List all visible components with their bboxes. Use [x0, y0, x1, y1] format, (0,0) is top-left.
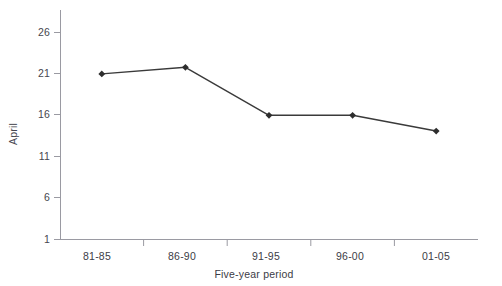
- data-point-marker: [349, 112, 356, 119]
- x-tick-label-81-85: 81-85: [62, 250, 132, 262]
- y-tick-label-6: 6: [20, 192, 50, 203]
- y-axis-ticks: [54, 33, 60, 240]
- line-chart: 26 21 16 11 6 1 April 81-85 86-90 91-95 …: [0, 0, 502, 286]
- plot-area: [0, 0, 502, 286]
- data-point-marker: [182, 64, 189, 71]
- x-axis-ticks: [144, 240, 395, 246]
- data-point-marker: [433, 128, 440, 135]
- x-tick-label-01-05: 01-05: [401, 250, 471, 262]
- y-tick-label-11: 11: [20, 151, 50, 162]
- data-point-marker: [98, 71, 105, 78]
- x-tick-label-91-95: 91-95: [231, 250, 301, 262]
- x-tick-label-96-00: 96-00: [315, 250, 385, 262]
- x-tick-label-86-90: 86-90: [147, 250, 217, 262]
- y-tick-label-21: 21: [20, 68, 50, 79]
- y-tick-label-26: 26: [20, 27, 50, 38]
- x-axis-label: Five-year period: [179, 268, 329, 280]
- y-tick-label-16: 16: [20, 109, 50, 120]
- data-point-marker: [266, 112, 273, 119]
- data-point-markers: [98, 64, 439, 135]
- y-tick-label-1: 1: [20, 234, 50, 245]
- y-axis-label: April: [7, 105, 19, 145]
- data-line-series-april: [102, 67, 436, 131]
